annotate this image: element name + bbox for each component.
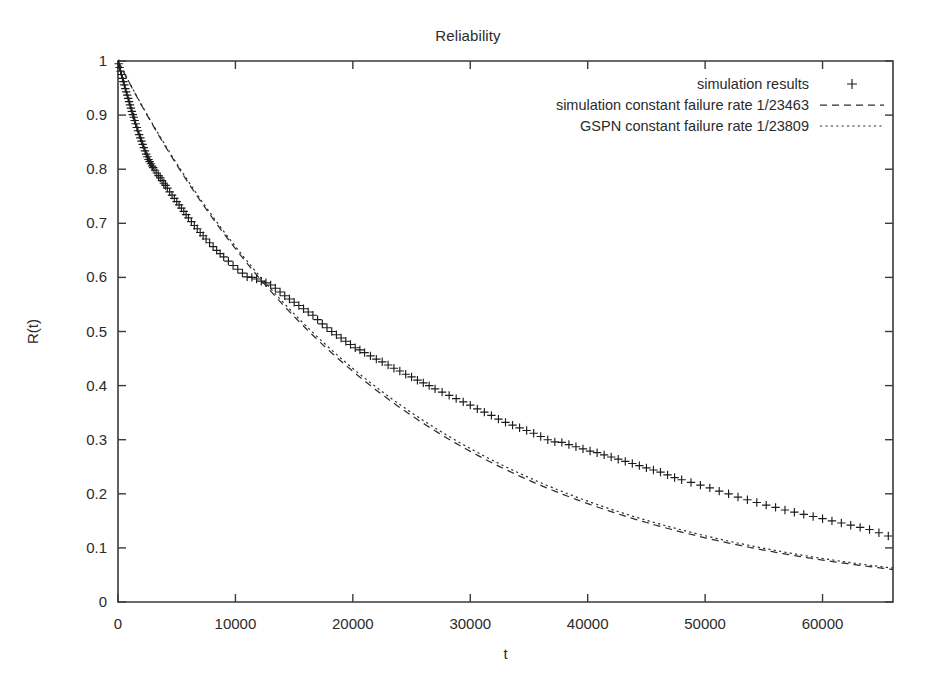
y-tick-label: 0.2 [86, 485, 107, 502]
y-tick-label: 0.4 [86, 377, 107, 394]
y-tick-label: 0.6 [86, 268, 107, 285]
series-curve-gspn-rate [118, 61, 893, 568]
legend-label-0: simulation results [697, 76, 809, 92]
x-tick-label: 60000 [802, 615, 844, 632]
plot-area: 010000200003000040000500006000000.10.20.… [0, 0, 936, 679]
y-tick-label: 0.7 [86, 214, 107, 231]
x-tick-label: 30000 [449, 615, 491, 632]
x-tick-label: 20000 [332, 615, 374, 632]
x-axis-title: t [503, 645, 508, 662]
x-tick-label: 50000 [684, 615, 726, 632]
y-tick-label: 0.1 [86, 539, 107, 556]
y-tick-label: 1 [99, 52, 107, 69]
chart-svg: 010000200003000040000500006000000.10.20.… [0, 0, 936, 679]
x-tick-label: 0 [114, 615, 122, 632]
y-tick-label: 0.5 [86, 323, 107, 340]
legend-key-plus-icon [847, 79, 857, 89]
y-tick-label: 0.8 [86, 160, 107, 177]
y-tick-label: 0.9 [86, 106, 107, 123]
axis-frame [118, 61, 893, 602]
chart-root: Reliability 0100002000030000400005000060… [0, 0, 936, 679]
series-curve-simulation-rate [118, 61, 893, 570]
x-tick-label: 10000 [215, 615, 257, 632]
chart-generated-layer: 010000200003000040000500006000000.10.20.… [24, 52, 893, 662]
y-tick-label: 0 [99, 593, 107, 610]
y-tick-label: 0.3 [86, 431, 107, 448]
legend-label-2: GSPN constant failure rate 1/23809 [580, 118, 809, 134]
x-tick-label: 40000 [567, 615, 609, 632]
y-axis-title: R(t) [24, 319, 41, 344]
legend-label-1: simulation constant failure rate 1/23463 [556, 97, 809, 113]
